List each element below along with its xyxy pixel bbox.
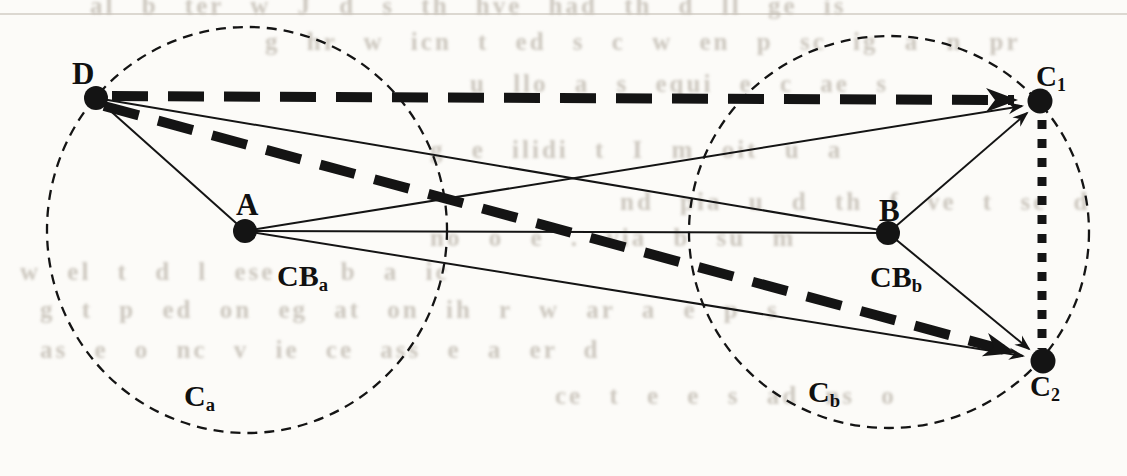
point-a-dot [233, 219, 257, 243]
diagram-svg [0, 0, 1127, 476]
scanned-figure-page: al b ter w J d s th hve had th d ll ge i… [0, 0, 1127, 476]
point-c2-label: C2 [1030, 372, 1060, 404]
edge-d-a [96, 98, 245, 231]
point-d-label: D [72, 58, 94, 89]
point-a-label: A [236, 189, 258, 220]
center-label-cba: CBa [277, 261, 328, 295]
center-label-cbb: CBb [870, 262, 922, 296]
cluster-label-ca: Ca [184, 381, 215, 415]
edge-d-c1-dashed-arrow [112, 96, 1014, 100]
point-c1-label: C1 [1036, 62, 1066, 94]
edge-b-c1 [888, 113, 1027, 233]
edge-a-c1 [245, 106, 1022, 231]
point-b-label: B [879, 195, 900, 226]
cluster-label-cb: Cb [808, 377, 840, 411]
